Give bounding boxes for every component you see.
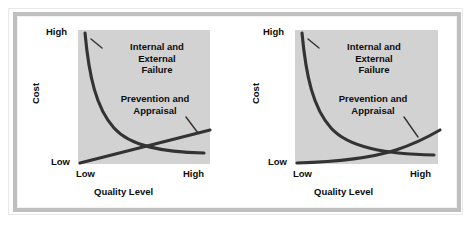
- leader-line-prevention-left: [186, 117, 198, 133]
- annotation-prevention-line1: Prevention and: [100, 93, 210, 105]
- y-axis-title-right: Cost: [250, 77, 261, 111]
- annotation-failure-line2: External: [102, 53, 212, 65]
- annotation-prevention-right: Prevention and Appraisal: [318, 93, 428, 116]
- annotation-prevention-left: Prevention and Appraisal: [100, 93, 210, 116]
- annotation-prevention-line1: Prevention and: [318, 93, 428, 105]
- annotation-failure-line3: Failure: [102, 64, 212, 76]
- annotation-failure-right: Internal and External Failure: [319, 41, 429, 76]
- y-tick-low-left: Low: [51, 156, 70, 167]
- y-axis-title-left: Cost: [30, 77, 41, 111]
- leader-line-failure-right: [308, 39, 319, 48]
- y-tick-high-right: High: [263, 26, 284, 37]
- figure-root: Cost High Low Low High Quality Level Int…: [0, 0, 473, 225]
- leader-line-failure-left: [91, 39, 102, 48]
- y-tick-high-left: High: [46, 26, 67, 37]
- annotation-failure-line1: Internal and: [102, 41, 212, 53]
- chart-panel-left: Cost High Low Low High Quality Level Int…: [18, 16, 236, 208]
- x-tick-high-right: High: [410, 168, 431, 179]
- chart-panel-right: Cost High Low Low High Quality Level Int…: [238, 16, 456, 208]
- y-tick-low-right: Low: [268, 156, 287, 167]
- annotation-prevention-line2: Appraisal: [318, 105, 428, 117]
- x-axis-title-left: Quality Level: [94, 186, 153, 197]
- annotation-prevention-line2: Appraisal: [100, 105, 210, 117]
- annotation-failure-left: Internal and External Failure: [102, 41, 212, 76]
- x-axis-title-right: Quality Level: [314, 186, 373, 197]
- x-tick-low-left: Low: [76, 168, 95, 179]
- curve-prevention-left: [80, 130, 210, 163]
- annotation-failure-line2: External: [319, 53, 429, 65]
- annotation-failure-line1: Internal and: [319, 41, 429, 53]
- annotation-failure-line3: Failure: [319, 64, 429, 76]
- x-tick-low-right: Low: [293, 168, 312, 179]
- leader-line-prevention-right: [404, 117, 418, 137]
- x-tick-high-left: High: [183, 168, 204, 179]
